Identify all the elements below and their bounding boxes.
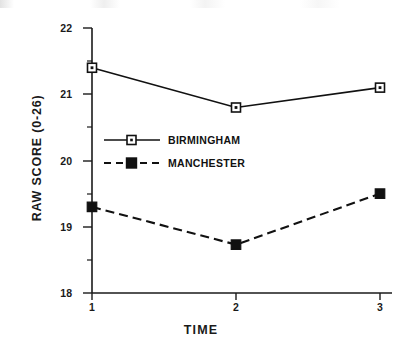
legend-swatch-birmingham (104, 136, 160, 145)
data-point-center (91, 66, 94, 69)
x-major-ticks (92, 293, 380, 300)
legend-item-manchester: MANCHESTER (168, 156, 245, 170)
legend-label-birmingham: BIRMINGHAM (168, 134, 240, 146)
data-point-center (235, 106, 238, 109)
data-point (375, 189, 385, 199)
legend-item-birmingham: BIRMINGHAM (168, 133, 240, 147)
series-birmingham-markers (88, 63, 385, 112)
chart-figure: RAW SCORE (0-26) TIME 22 21 20 19 18 1 2… (0, 0, 402, 347)
data-point (231, 240, 241, 250)
series-manchester-markers (87, 189, 385, 250)
plot-area (0, 0, 402, 347)
series-birmingham-line (92, 68, 380, 108)
series-manchester-line (92, 194, 380, 245)
legend-swatch-manchester (104, 158, 160, 168)
legend-label-manchester: MANCHESTER (168, 157, 245, 169)
data-point (87, 202, 97, 212)
data-point-center (379, 86, 382, 89)
